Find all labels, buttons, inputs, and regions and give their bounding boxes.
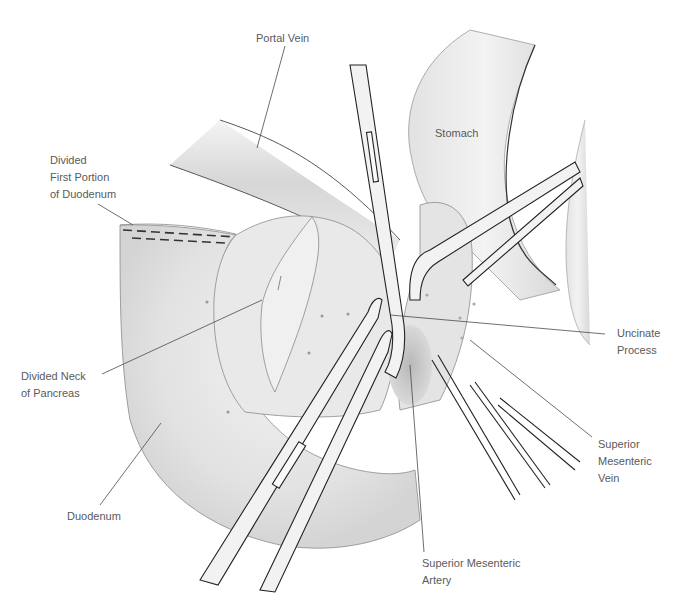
label-divided-neck-pancreas: Divided Neck of Pancreas <box>21 368 86 402</box>
surgical-illustration: Portal Vein Stomach Divided First Portio… <box>0 0 686 608</box>
leader-first-portion <box>98 204 133 225</box>
label-duodenum: Duodenum <box>67 508 121 525</box>
label-stomach: Stomach <box>435 125 478 142</box>
label-uncinate-process: Uncinate Process <box>617 325 660 359</box>
label-portal-vein: Portal Vein <box>256 30 309 47</box>
leader-portal-vein <box>257 46 285 148</box>
label-divided-first-portion-duodenum: Divided First Portion of Duodenum <box>50 152 116 203</box>
lower-clamps <box>432 355 580 500</box>
label-superior-mesenteric-artery: Superior Mesenteric Artery <box>422 555 520 589</box>
label-superior-mesenteric-vein: Superior Mesenteric Vein <box>598 436 652 487</box>
